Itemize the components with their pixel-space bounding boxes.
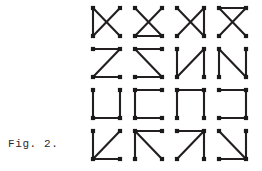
glyph-vertex-bottom-left (217, 116, 221, 120)
glyph-vertex-bottom-right (160, 34, 164, 38)
glyph-vertex-top-right (244, 47, 248, 51)
glyph-vertex-bottom-right (202, 34, 206, 38)
glyph-segment (135, 49, 162, 77)
glyph-vertex-bottom-left (133, 157, 137, 161)
glyph-vertex-top-left (175, 129, 179, 133)
glyph-vertex-top-right (160, 6, 164, 10)
glyph-vertex-top-right (244, 88, 248, 92)
glyph-vertex-bottom-right (244, 34, 248, 38)
glyph-vertex-top-left (91, 88, 95, 92)
glyph-vertex-bottom-right (160, 116, 164, 120)
glyph-x-with-bottom-edge (128, 2, 170, 43)
glyph-arrow-corner-lower-left (86, 125, 128, 166)
glyph-arrow-corner-lower-right (212, 125, 254, 166)
glyph-vertex-top-right (202, 88, 206, 92)
glyph-vertex-bottom-right (118, 116, 122, 120)
glyph-vertex-bottom-left (175, 75, 179, 79)
glyph-vertex-bottom-right (244, 157, 248, 161)
glyph-vertex-bottom-left (133, 34, 137, 38)
glyph-vertex-top-left (217, 47, 221, 51)
glyph-vertex-bottom-right (202, 75, 206, 79)
glyph-vertex-top-left (217, 129, 221, 133)
glyph-grid (86, 2, 254, 168)
glyph-vertex-bottom-left (175, 157, 179, 161)
glyph-inverted-u (170, 84, 212, 125)
glyph-segment (177, 49, 204, 77)
glyph-vertex-top-right (118, 88, 122, 92)
glyph-vertex-top-left (91, 129, 95, 133)
figure-caption: Fig. 2. (8, 138, 58, 150)
glyph-vertex-bottom-left (133, 75, 137, 79)
glyph-segment (219, 131, 246, 159)
glyph-vertex-bottom-right (118, 157, 122, 161)
glyph-letter-u (86, 84, 128, 125)
glyph-letter-c (128, 84, 170, 125)
glyph-vertex-top-right (244, 129, 248, 133)
glyph-vertex-top-right (160, 129, 164, 133)
glyph-vertex-top-left (133, 129, 137, 133)
glyph-vertex-top-left (91, 47, 95, 51)
glyph-segment (177, 131, 204, 159)
glyph-vertex-top-left (91, 6, 95, 10)
glyph-vertex-bottom-right (244, 75, 248, 79)
glyph-segment (135, 131, 162, 159)
glyph-x-with-left-edge (86, 2, 128, 43)
glyph-vertex-top-left (133, 6, 137, 10)
glyph-vertex-top-left (175, 6, 179, 10)
glyph-vertex-bottom-left (91, 75, 95, 79)
glyph-letter-n-mirrored (170, 43, 212, 84)
glyph-vertex-top-left (133, 88, 137, 92)
glyph-vertex-bottom-right (118, 34, 122, 38)
glyph-letter-c-mirrored (212, 84, 254, 125)
glyph-vertex-top-left (175, 47, 179, 51)
glyph-vertex-top-left (175, 88, 179, 92)
glyph-vertex-top-right (160, 88, 164, 92)
glyph-letter-n (212, 43, 254, 84)
glyph-vertex-bottom-right (160, 75, 164, 79)
glyph-vertex-top-left (217, 88, 221, 92)
glyph-x-with-top-edge (212, 2, 254, 43)
glyph-vertex-top-left (217, 6, 221, 10)
glyph-vertex-top-right (202, 47, 206, 51)
glyph-vertex-bottom-right (118, 75, 122, 79)
glyph-vertex-bottom-right (244, 116, 248, 120)
glyph-vertex-bottom-left (91, 157, 95, 161)
glyph-vertex-bottom-right (160, 157, 164, 161)
glyph-vertex-bottom-left (217, 75, 221, 79)
glyph-vertex-bottom-right (202, 157, 206, 161)
glyph-vertex-bottom-left (175, 34, 179, 38)
glyph-vertex-top-right (160, 47, 164, 51)
glyph-vertex-top-left (133, 47, 137, 51)
glyph-vertex-bottom-right (202, 116, 206, 120)
glyph-segment (219, 49, 246, 77)
glyph-vertex-top-right (118, 47, 122, 51)
glyph-vertex-bottom-left (91, 116, 95, 120)
glyph-vertex-bottom-left (217, 34, 221, 38)
glyph-vertex-top-right (118, 6, 122, 10)
glyph-vertex-top-right (202, 129, 206, 133)
glyph-vertex-bottom-left (91, 34, 95, 38)
glyph-arrow-corner-upper-left (128, 125, 170, 166)
glyph-vertex-top-right (244, 6, 248, 10)
glyph-vertex-top-right (202, 6, 206, 10)
glyph-arrow-corner-upper-right (170, 125, 212, 166)
glyph-letter-z (86, 43, 128, 84)
glyph-segment (93, 131, 120, 159)
glyph-vertex-top-right (118, 129, 122, 133)
glyph-segment (93, 49, 120, 77)
glyph-vertex-bottom-left (175, 116, 179, 120)
glyph-letter-z-mirrored (128, 43, 170, 84)
glyph-x-with-right-edge (170, 2, 212, 43)
figure-plate: Fig. 2. (0, 0, 262, 171)
glyph-vertex-bottom-left (133, 116, 137, 120)
glyph-vertex-bottom-left (217, 157, 221, 161)
